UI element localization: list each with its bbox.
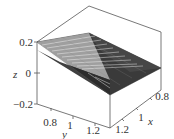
surface-plot: 0.2 0 −0.2 z 0.8 1 1.2 y 1.2 1 0.8 x — [0, 0, 174, 139]
x-tick-1: 1 — [138, 111, 144, 123]
x-tick-1.2: 1.2 — [115, 123, 129, 135]
y-axis: 0.8 1 1.2 y — [43, 108, 100, 139]
x-axis-label: x — [147, 115, 153, 127]
x-axis: 1.2 1 0.8 x — [115, 90, 169, 135]
y-tick-1.2: 1.2 — [86, 124, 100, 136]
z-tick-0.2: 0.2 — [19, 36, 33, 48]
z-tick-neg0.2: −0.2 — [13, 98, 33, 110]
z-axis-label: z — [12, 68, 18, 80]
x-tick-0.8: 0.8 — [155, 90, 169, 102]
y-axis-label: y — [61, 128, 67, 139]
y-tick-1: 1 — [67, 119, 73, 131]
y-tick-0.8: 0.8 — [43, 116, 57, 128]
z-axis: 0.2 0 −0.2 z — [12, 36, 40, 110]
surface-mesh — [37, 33, 161, 95]
z-tick-0: 0 — [26, 67, 32, 79]
